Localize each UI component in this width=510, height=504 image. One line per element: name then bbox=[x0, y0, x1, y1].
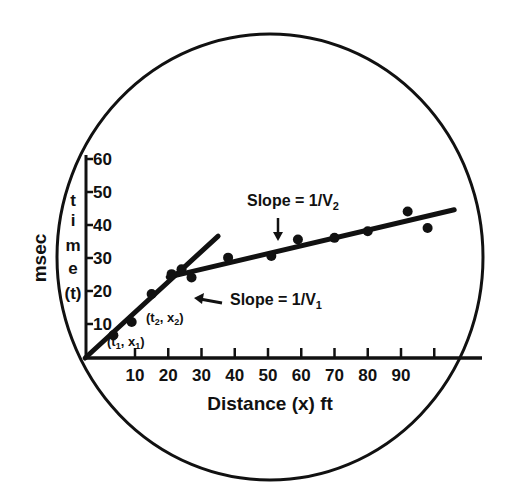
data-point bbox=[127, 317, 137, 327]
svg-text:(t2, x2): (t2, x2) bbox=[146, 310, 184, 327]
x-tick-label: 50 bbox=[259, 366, 278, 385]
data-point bbox=[293, 235, 303, 245]
y-tick-label: 20 bbox=[93, 282, 112, 301]
slope-v1-annotation: Slope = 1/V1 bbox=[194, 291, 322, 311]
y-tick-label: 30 bbox=[93, 249, 112, 268]
y-inner-label-char: (t) bbox=[65, 284, 82, 303]
data-point bbox=[177, 264, 187, 274]
data-point bbox=[223, 253, 233, 263]
y-inner-label-char: e bbox=[68, 259, 77, 278]
y-inner-label-char: m bbox=[65, 236, 80, 255]
x-tick-label: 70 bbox=[325, 366, 344, 385]
y-axis-inner-label: time(t) bbox=[65, 191, 82, 303]
data-point bbox=[403, 206, 413, 216]
svg-text:Slope = 1/V2: Slope = 1/V2 bbox=[247, 192, 339, 212]
svg-text:Slope = 1/V1: Slope = 1/V1 bbox=[230, 291, 322, 311]
svg-text:(t1, x1): (t1, x1) bbox=[107, 334, 145, 351]
y-tick-label: 60 bbox=[93, 150, 112, 169]
data-point bbox=[147, 289, 157, 299]
data-point bbox=[363, 226, 373, 236]
data-point bbox=[187, 272, 197, 282]
x-tick-label: 60 bbox=[292, 366, 311, 385]
y-axis-unit-label: msec bbox=[29, 233, 50, 282]
x-tick-label: 30 bbox=[192, 366, 211, 385]
y-ticks: 102030405060 bbox=[86, 150, 112, 334]
point-label-t1-x1: (t1, x1) bbox=[107, 334, 145, 351]
slope-v2-annotation: Slope = 1/V2 bbox=[247, 192, 339, 241]
point-label-t2-x2: (t2, x2) bbox=[146, 310, 184, 327]
x-tick-label: 90 bbox=[392, 366, 411, 385]
x-tick-label: 40 bbox=[225, 366, 244, 385]
arrow-left-icon bbox=[200, 299, 222, 303]
data-point bbox=[423, 223, 433, 233]
x-tick-label: 20 bbox=[159, 366, 178, 385]
data-point bbox=[266, 251, 276, 261]
x-tick-label: 10 bbox=[126, 366, 145, 385]
y-tick-label: 40 bbox=[93, 216, 112, 235]
data-point bbox=[330, 233, 340, 243]
x-ticks: 102030405060708090 bbox=[126, 348, 435, 385]
y-tick-label: 10 bbox=[93, 315, 112, 334]
y-tick-label: 50 bbox=[93, 183, 112, 202]
x-tick-label: 80 bbox=[358, 366, 377, 385]
x-axis-label: Distance (x) ft bbox=[207, 393, 333, 414]
chart: 102030405060708090 102030405060 Distance… bbox=[0, 0, 510, 504]
y-inner-label-char: t bbox=[70, 191, 76, 210]
data-point bbox=[167, 269, 177, 279]
y-inner-label-char: i bbox=[71, 211, 76, 230]
